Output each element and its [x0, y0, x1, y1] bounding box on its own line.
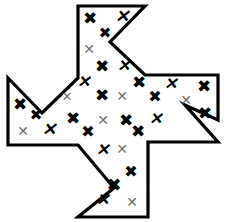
x-mark: ✖ [83, 10, 97, 27]
x-mark: ✕ [164, 76, 177, 92]
x-mark: ✕ [116, 142, 128, 156]
x-mark: ✖ [148, 89, 161, 105]
x-mark: ✖ [124, 164, 137, 180]
figure-canvas: ✖✕✖✕✖✕✕✖✕✖✕✖✖✕✖✕✖✖✖✕✖✕✕✕✖✖✕✕✖✖✕✕ [0, 0, 226, 222]
x-mark: ✖ [95, 87, 109, 104]
x-mark: ✖ [132, 74, 146, 91]
x-mark: ✕ [17, 124, 29, 138]
x-mark: ✕ [126, 195, 138, 209]
x-mark: ✕ [77, 74, 90, 90]
x-mark: ✖ [131, 123, 145, 140]
x-mark: ✕ [149, 111, 162, 127]
x-mark: ✕ [62, 90, 73, 103]
x-mark: ✖ [106, 176, 121, 194]
x-mark: ✕ [117, 58, 130, 74]
x-mark: ✕ [83, 42, 95, 56]
x-mark: ✖ [197, 78, 211, 95]
x-mark: ✕ [96, 142, 109, 158]
x-mark: ✕ [96, 192, 109, 208]
x-mark: ✖ [95, 58, 109, 75]
x-mark: ✖ [66, 110, 80, 127]
x-mark: ✖ [81, 124, 94, 140]
x-mark: ✖ [13, 96, 27, 113]
x-mark: ✕ [97, 113, 109, 127]
x-mark: ✖ [198, 105, 212, 122]
x-mark: ✖ [99, 26, 112, 41]
x-mark: ✕ [42, 121, 56, 138]
x-mark: ✕ [115, 8, 129, 25]
x-mark: ✖ [30, 108, 43, 123]
x-mark: ✕ [180, 93, 192, 107]
x-mark: ✕ [116, 89, 128, 103]
